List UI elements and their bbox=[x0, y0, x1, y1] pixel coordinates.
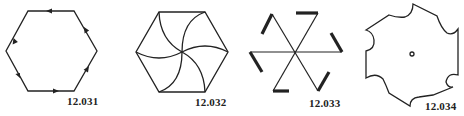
gear-outline bbox=[366, 4, 458, 106]
arrow-left-icon bbox=[46, 9, 52, 14]
figure-12-032 bbox=[136, 12, 228, 92]
arc bbox=[136, 52, 182, 58]
axis-lines bbox=[250, 13, 342, 91]
hexagon-shape bbox=[6, 11, 97, 91]
arc bbox=[159, 12, 182, 52]
arrow-icons bbox=[13, 9, 90, 94]
arrow-down-left-icon bbox=[13, 38, 18, 45]
arc bbox=[182, 46, 228, 52]
figure-label-12-032: 12.032 bbox=[195, 97, 226, 108]
figure-label-12-033: 12.033 bbox=[309, 98, 340, 109]
arrow-right-icon bbox=[53, 89, 59, 94]
figure-panel: 12.031 12.032 12.033 12.034 bbox=[0, 0, 464, 116]
figure-12-031 bbox=[6, 9, 97, 94]
figure-12-034 bbox=[366, 4, 458, 106]
figure-12-033 bbox=[250, 13, 342, 91]
arc bbox=[182, 52, 205, 92]
center-circle bbox=[410, 52, 414, 56]
arrow-down-right-icon bbox=[15, 73, 20, 78]
figure-label-12-034: 12.034 bbox=[425, 101, 456, 112]
figure-label-12-031: 12.031 bbox=[67, 96, 98, 107]
arrow-up-right-icon bbox=[84, 66, 89, 73]
